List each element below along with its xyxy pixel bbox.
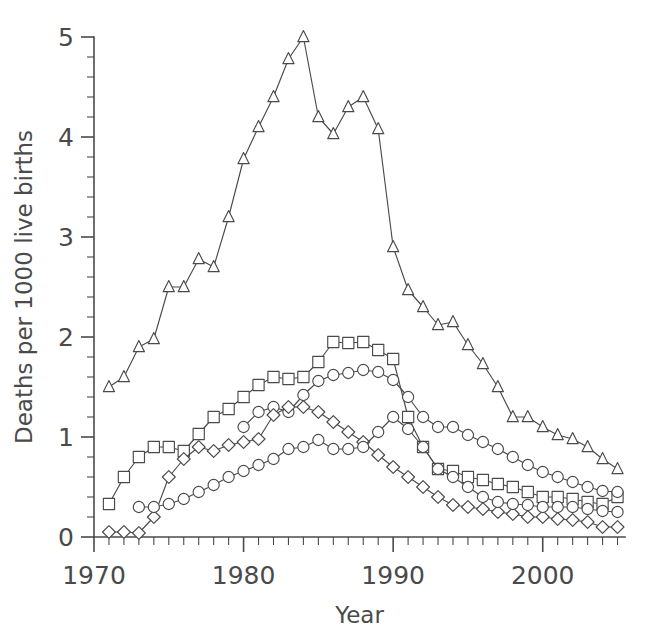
marker-diamond <box>312 406 325 419</box>
marker-circle <box>432 421 443 432</box>
marker-triangle <box>238 153 249 164</box>
marker-circle <box>537 466 548 477</box>
marker-circle <box>462 429 473 440</box>
marker-triangle <box>522 411 533 422</box>
marker-circle <box>253 406 264 417</box>
marker-square <box>403 411 414 422</box>
marker-square <box>223 403 234 414</box>
marker-square <box>298 371 309 382</box>
marker-square <box>148 441 159 452</box>
marker-diamond <box>222 439 235 452</box>
y-tick-label: 4 <box>58 123 74 152</box>
marker-diamond <box>387 461 400 474</box>
series-circle-series-lower <box>133 411 623 517</box>
marker-circle <box>133 501 144 512</box>
marker-circle <box>522 499 533 510</box>
marker-diamond <box>342 426 355 439</box>
marker-circle <box>388 411 399 422</box>
marker-square <box>163 441 174 452</box>
marker-circle <box>328 369 339 380</box>
marker-circle <box>253 459 264 470</box>
marker-circle <box>208 479 219 490</box>
marker-circle <box>447 471 458 482</box>
marker-triangle <box>552 429 563 440</box>
marker-square <box>343 337 354 348</box>
marker-triangle <box>103 381 114 392</box>
marker-square <box>373 344 384 355</box>
marker-square <box>103 498 114 509</box>
marker-circle <box>178 493 189 504</box>
marker-triangle <box>178 281 189 292</box>
marker-square <box>283 373 294 384</box>
marker-circle <box>328 443 339 454</box>
marker-square <box>253 379 264 390</box>
marker-diamond <box>207 445 220 458</box>
marker-diamond <box>432 491 445 504</box>
marker-circle <box>597 485 608 496</box>
marker-circle <box>477 491 488 502</box>
y-tick-label: 3 <box>58 223 74 252</box>
marker-circle <box>343 443 354 454</box>
marker-circle <box>477 436 488 447</box>
marker-square <box>133 451 144 462</box>
y-tick-label: 0 <box>58 523 74 552</box>
marker-diamond <box>327 416 340 429</box>
marker-circle <box>537 501 548 512</box>
marker-square <box>313 356 324 367</box>
marker-circle <box>298 441 309 452</box>
marker-circle <box>373 426 384 437</box>
marker-triangle <box>358 91 369 102</box>
x-axis-title: Year <box>334 602 384 627</box>
marker-circle <box>417 411 428 422</box>
series-triangle-series <box>103 31 623 474</box>
marker-circle <box>283 443 294 454</box>
marker-diamond <box>192 441 205 454</box>
marker-circle <box>567 501 578 512</box>
x-tick-label: 1980 <box>212 561 276 590</box>
marker-circle <box>238 421 249 432</box>
marker-square <box>358 336 369 347</box>
marker-triangle <box>462 339 473 350</box>
marker-circle <box>462 481 473 492</box>
marker-diamond <box>462 501 475 514</box>
marker-circle <box>417 441 428 452</box>
marker-circle <box>597 505 608 516</box>
marker-circle <box>507 451 518 462</box>
marker-square <box>388 353 399 364</box>
marker-triangle <box>492 381 503 392</box>
marker-circle <box>313 434 324 445</box>
y-tick-label: 5 <box>58 23 74 52</box>
marker-triangle <box>447 316 458 327</box>
marker-circle <box>567 476 578 487</box>
marker-circle <box>612 506 623 517</box>
marker-diamond <box>237 436 250 449</box>
marker-square <box>522 486 533 497</box>
marker-diamond <box>162 471 175 484</box>
marker-circle <box>358 441 369 452</box>
marker-circle <box>492 443 503 454</box>
marker-square <box>492 478 503 489</box>
marker-circle <box>358 364 369 375</box>
marker-diamond <box>417 481 430 494</box>
marker-circle <box>298 389 309 400</box>
marker-circle <box>373 366 384 377</box>
marker-triangle <box>612 463 623 474</box>
marker-square <box>193 428 204 439</box>
marker-circle <box>582 503 593 514</box>
marker-triangle <box>148 333 159 344</box>
marker-triangle <box>268 91 279 102</box>
marker-diamond <box>566 514 579 527</box>
marker-diamond <box>521 511 534 524</box>
marker-square <box>507 481 518 492</box>
marker-square <box>268 371 279 382</box>
line-chart-canvas: 0123451970198019902000YearDeaths per 100… <box>0 0 647 627</box>
marker-triangle <box>537 421 548 432</box>
marker-square <box>328 336 339 347</box>
marker-circle <box>552 471 563 482</box>
series-group <box>103 31 624 540</box>
marker-circle <box>223 471 234 482</box>
marker-diamond <box>596 521 609 534</box>
marker-triangle <box>582 441 593 452</box>
y-tick-label: 2 <box>58 323 74 352</box>
marker-triangle <box>118 371 129 382</box>
